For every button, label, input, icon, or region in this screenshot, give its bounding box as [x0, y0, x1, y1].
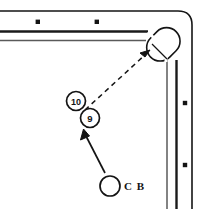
diamond-right-1: [183, 101, 187, 105]
right-rail: [167, 58, 177, 209]
ball-10: 10: [67, 92, 86, 111]
billiards-diagram: 10 9 C B: [0, 0, 204, 209]
object-ball-path-line: [85, 54, 146, 110]
corner-pocket: [141, 22, 186, 67]
diamond-top-2: [95, 20, 99, 24]
cue-ball: [100, 176, 120, 196]
diamond-top-1: [36, 20, 40, 24]
ball-10-label: 10: [71, 97, 81, 107]
cue-ball-path: [81, 129, 106, 173]
cue-ball-caption: C B: [124, 180, 145, 192]
top-rail: [0, 32, 148, 41]
diamond-right-2: [183, 163, 187, 167]
object-ball-path: [85, 50, 150, 110]
cue-ball-circle: [100, 176, 120, 196]
ball-9: 9: [81, 109, 100, 128]
cue-ball-path-line: [86, 136, 105, 173]
corner-pocket-shape: [141, 22, 186, 67]
diagram-canvas: 10 9 C B: [0, 0, 204, 209]
ball-9-label: 9: [87, 113, 92, 124]
